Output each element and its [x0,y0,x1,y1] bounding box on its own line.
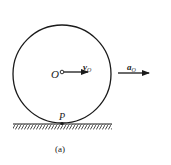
figure-caption: (a) [55,144,65,154]
center-point [60,70,64,74]
center-label: O [51,68,59,80]
acceleration-label: aO [127,62,137,73]
rolling-disk-diagram: O vO aO P (a) [0,0,171,165]
velocity-label: vO [83,62,92,73]
contact-point [60,122,63,125]
contact-point-label: P [58,111,65,122]
